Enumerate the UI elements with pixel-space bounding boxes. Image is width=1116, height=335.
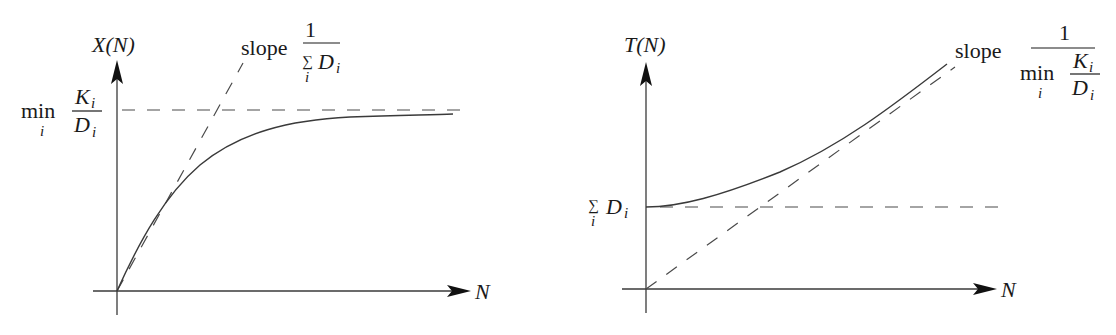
sum-symbol: ∑ [588, 197, 599, 214]
right-y-axis-label: T(N) [624, 32, 666, 57]
right-x-axis-label: N [1000, 277, 1017, 302]
intercept-term-subscript: i [624, 205, 628, 221]
left-throughput-curve [117, 114, 453, 291]
inner-numerator: K [1072, 48, 1089, 73]
slope-numerator: 1 [305, 17, 316, 42]
intercept-term: D [605, 194, 622, 219]
slope-word: slope [241, 35, 287, 60]
left-slope-dashed-line [117, 63, 243, 291]
inner-numerator-subscript: i [1089, 59, 1093, 75]
slope-denominator-subscript: i [336, 60, 340, 76]
fraction-numerator: K [74, 84, 91, 109]
fraction-denominator: D [73, 112, 90, 137]
left-slope-label: slope 1 ∑ i D i [241, 17, 340, 85]
right-slope-label: slope 1 min i K i D i [955, 20, 1100, 103]
slope-denominator: D [317, 49, 334, 74]
left-x-axis-label: N [474, 279, 491, 304]
min-text: min [21, 98, 55, 123]
denominator-subscript: i [92, 124, 96, 140]
min-index: i [40, 123, 44, 139]
diagram-canvas: X(N) N min i K i D i slope 1 ∑ i D i [0, 0, 1116, 335]
numerator-subscript: i [91, 95, 95, 111]
slope-word: slope [955, 38, 1001, 63]
left-plot-throughput: X(N) N min i K i D i slope 1 ∑ i D i [21, 17, 491, 315]
slope-numerator: 1 [1059, 20, 1070, 45]
min-text: min [1020, 60, 1054, 85]
right-intercept-label: ∑ i D i [588, 194, 628, 229]
sum-index: i [591, 213, 595, 229]
left-y-axis-label: X(N) [91, 32, 135, 57]
right-response-time-curve [646, 64, 947, 207]
sum-index: i [305, 69, 309, 85]
inner-denominator-subscript: i [1090, 87, 1094, 103]
left-asymptote-label: min i K i D i [21, 84, 102, 140]
right-plot-response-time: T(N) N ∑ i D i slope 1 min i K i D i [588, 20, 1100, 313]
sum-symbol: ∑ [302, 53, 313, 70]
right-slope-dashed-line [646, 67, 955, 289]
min-index: i [1038, 85, 1042, 101]
inner-denominator: D [1071, 75, 1088, 100]
